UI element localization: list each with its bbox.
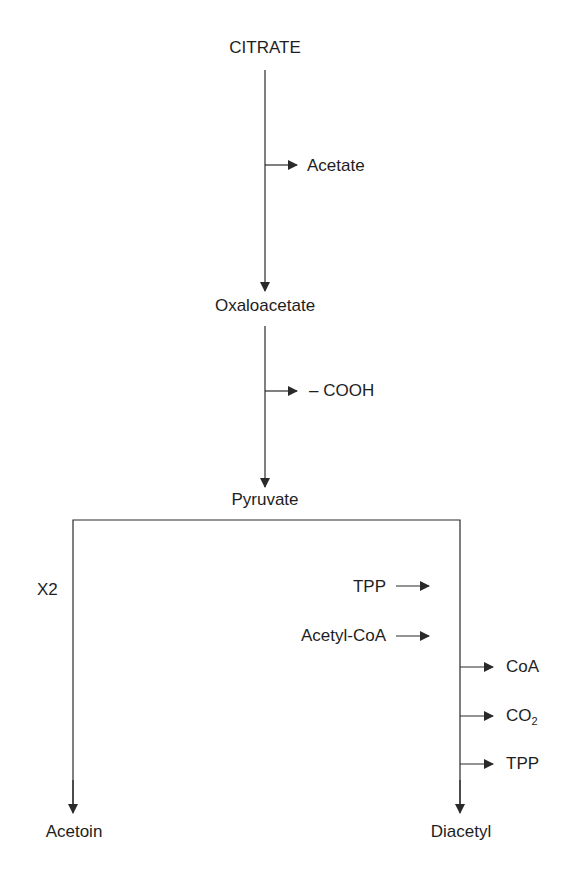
label-cooh: – COOH <box>309 381 374 401</box>
co2-text: CO <box>506 706 532 725</box>
branch-connector <box>73 520 460 812</box>
node-pyruvate: Pyruvate <box>231 490 298 510</box>
label-co2: CO2 <box>506 706 538 731</box>
label-acetyl-coa: Acetyl-CoA <box>301 626 386 646</box>
node-oxaloacetate: Oxaloacetate <box>215 296 315 316</box>
label-x2: X2 <box>37 580 58 600</box>
label-coa: CoA <box>506 657 539 677</box>
node-diacetyl: Diacetyl <box>431 822 491 842</box>
co2-subscript: 2 <box>532 715 538 727</box>
label-tpp-release: TPP <box>506 754 539 774</box>
node-citrate: CITRATE <box>229 38 300 58</box>
label-tpp-input: TPP <box>353 577 386 597</box>
pathway-lines <box>0 0 576 871</box>
node-acetoin: Acetoin <box>46 822 103 842</box>
label-acetate: Acetate <box>307 156 365 176</box>
